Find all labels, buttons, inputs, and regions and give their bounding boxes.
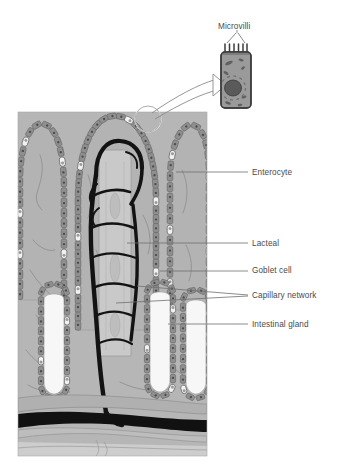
enterocyte [38, 327, 43, 335]
goblet-cell [153, 197, 159, 206]
cell-nucleus [155, 210, 157, 212]
cell-nucleus [182, 358, 184, 360]
cell-nucleus [77, 226, 79, 228]
cell-nucleus [77, 271, 79, 273]
enterocyte [153, 223, 159, 232]
goblet-cell [153, 268, 159, 277]
cell-nucleus [40, 370, 42, 372]
cell-nucleus [155, 236, 157, 238]
cell-nucleus [208, 358, 210, 360]
label-lacteal: Lacteal [252, 239, 279, 249]
enterocyte [144, 364, 149, 372]
cell-nucleus [208, 317, 210, 319]
cell-nucleus [182, 348, 184, 350]
cell-nucleus [63, 264, 65, 266]
cell-nucleus [66, 378, 69, 381]
cell-nucleus [169, 249, 171, 251]
cell-nucleus [155, 201, 158, 204]
enterocyte [167, 247, 173, 256]
enterocyte [144, 355, 149, 363]
enterocyte [61, 229, 67, 238]
label-goblet-cell: Goblet cell [252, 266, 292, 276]
enterocyte [151, 170, 158, 180]
enterocyte [153, 206, 159, 215]
cell-nucleus [66, 359, 68, 361]
enterocyte [64, 307, 69, 315]
cell-nucleus [182, 317, 184, 319]
cell-nucleus [66, 349, 68, 351]
enterocyte [64, 297, 69, 305]
cell-nucleus [63, 223, 65, 225]
cell-nucleus [40, 330, 42, 332]
cell-nucleus [169, 185, 171, 187]
gland-lumen-1 [44, 294, 64, 394]
intestinal-villus-figure: Microvilli Enterocyte Lacteal Goblet cel… [0, 0, 342, 472]
cell-nucleus [172, 367, 174, 369]
enterocyte [64, 356, 69, 364]
cell-nucleus [40, 340, 42, 342]
cell-nucleus [40, 320, 42, 322]
microvilli [225, 44, 247, 52]
cell-nucleus [19, 262, 21, 264]
cell-nucleus [19, 232, 21, 234]
cell-nucleus [63, 243, 65, 245]
nucleus [225, 80, 242, 96]
enterocyte [167, 193, 173, 202]
cell-nucleus [208, 307, 210, 309]
cell-nucleus [208, 336, 211, 339]
enterocyte [167, 161, 173, 171]
cell-nucleus [169, 217, 171, 219]
enterocyte [38, 347, 43, 355]
goblet-cell [144, 345, 149, 353]
label-intestinal-gland: Intestinal gland [252, 320, 309, 330]
goblet-cell [64, 317, 69, 325]
enterocyte [144, 374, 149, 382]
cell-nucleus [146, 328, 148, 330]
enterocyte [64, 346, 69, 354]
cell-nucleus [208, 197, 210, 199]
enterocyte [75, 214, 81, 223]
cell-nucleus [208, 229, 210, 231]
cell-nucleus [146, 298, 148, 300]
cell-nucleus [182, 337, 184, 339]
cell-nucleus [172, 357, 174, 359]
goblet-cell [170, 305, 175, 313]
cell-nucleus [182, 307, 184, 309]
label-enterocyte: Enterocyte [252, 168, 292, 178]
enterocyte [153, 232, 159, 241]
enterocyte [180, 375, 185, 383]
goblet-cell [77, 161, 84, 171]
enterocyte [167, 215, 173, 224]
enterocyte [38, 307, 43, 315]
cell-nucleus [208, 251, 211, 254]
cell-nucleus [63, 192, 65, 194]
enterocyte [144, 305, 149, 313]
gland-lumen-2 [150, 292, 170, 392]
cell-nucleus [146, 378, 148, 380]
cell-nucleus [155, 254, 157, 256]
enterocyte [75, 294, 81, 303]
enterocyte [180, 365, 185, 373]
enterocyte [170, 364, 175, 372]
enterocyte [61, 219, 67, 228]
enterocyte [38, 337, 43, 345]
cell-nucleus [169, 227, 172, 230]
cell-nucleus [63, 233, 65, 235]
enterocyte [180, 313, 185, 321]
cell-nucleus [77, 234, 80, 237]
cell-nucleus [146, 368, 148, 370]
cell-nucleus [77, 253, 79, 255]
cell-nucleus [77, 244, 79, 246]
cell-nucleus [208, 208, 210, 210]
enterocyte [170, 295, 175, 303]
cell-nucleus [77, 279, 79, 281]
cell-nucleus [77, 315, 79, 317]
enterocyte [170, 315, 175, 323]
cell-nucleus [169, 239, 171, 241]
cell-nucleus [208, 219, 210, 221]
enterocyte [144, 335, 149, 343]
enterocyte [75, 188, 81, 197]
cell-nucleus [155, 263, 157, 265]
cell-nucleus [63, 274, 65, 276]
cell-nucleus [155, 227, 157, 229]
